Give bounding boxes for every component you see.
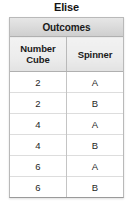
outcomes-table-container: Outcomes Number Cube Spinner 2 A xyxy=(9,17,124,198)
page-title: Elise xyxy=(0,1,133,14)
table-body: 2 A 2 B 4 A 4 B 6 A xyxy=(10,72,123,198)
outcomes-table: Outcomes Number Cube Spinner 2 A xyxy=(10,18,123,197)
column-header-spinner-line1: Spinner xyxy=(78,49,113,60)
table-row: 2 B xyxy=(10,93,123,114)
cell-spinner: A xyxy=(67,72,124,93)
cell-number-cube: 6 xyxy=(10,177,67,198)
table-span-header-row: Outcomes xyxy=(10,18,123,37)
table-span-header: Outcomes xyxy=(10,18,123,37)
table-row: 6 B xyxy=(10,177,123,198)
column-header-spinner: Spinner xyxy=(67,37,124,72)
column-header-number-cube: Number Cube xyxy=(10,37,67,72)
cell-spinner: B xyxy=(67,177,124,198)
table-row: 4 A xyxy=(10,114,123,135)
cell-number-cube: 4 xyxy=(10,114,67,135)
cell-spinner: B xyxy=(67,93,124,114)
cell-number-cube: 4 xyxy=(10,135,67,156)
column-header-number-cube-line2: Cube xyxy=(12,54,64,65)
cell-number-cube: 2 xyxy=(10,93,67,114)
column-header-number-cube-line1: Number xyxy=(20,43,55,54)
cell-number-cube: 2 xyxy=(10,72,67,93)
cell-spinner: B xyxy=(67,135,124,156)
table-head: Outcomes Number Cube Spinner xyxy=(10,18,123,72)
cell-number-cube: 6 xyxy=(10,156,67,177)
table-row: 4 B xyxy=(10,135,123,156)
table-row: 2 A xyxy=(10,72,123,93)
cell-spinner: A xyxy=(67,156,124,177)
table-row: 6 A xyxy=(10,156,123,177)
cell-spinner: A xyxy=(67,114,124,135)
outcomes-table-figure: Elise Outcomes Number Cube Spinner xyxy=(0,0,133,204)
table-column-header-row: Number Cube Spinner xyxy=(10,37,123,72)
